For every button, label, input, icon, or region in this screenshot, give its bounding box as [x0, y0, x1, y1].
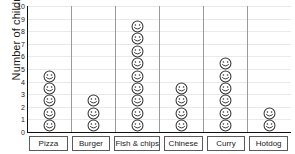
symbol-stack: [72, 95, 115, 132]
smiley-face-icon: [43, 119, 56, 132]
category-column: [116, 6, 160, 132]
smiley-face-icon: [87, 107, 100, 120]
symbol-stack: [248, 107, 291, 132]
category-column: [160, 6, 204, 132]
smiley-face-icon: [175, 107, 188, 120]
y-tick-label: 8: [12, 28, 25, 35]
y-tick-label: 6: [12, 53, 25, 60]
category-label-cell: Fish & chips: [114, 136, 160, 151]
smiley-face-icon: [43, 107, 56, 120]
y-tick-label: 9: [12, 15, 25, 22]
y-tick-label: 7: [12, 40, 25, 47]
category-columns: [28, 6, 291, 132]
smiley-face-icon: [87, 119, 100, 132]
smiley-face-icon: [131, 82, 144, 95]
smiley-face-icon: [263, 107, 276, 120]
category-column: [72, 6, 116, 132]
category-label-hotdog: Hotdog: [249, 136, 288, 151]
symbol-stack: [28, 70, 71, 132]
smiley-face-icon: [43, 94, 56, 107]
category-label-row: PizzaBurgerFish & chipsChineseCurryHotdo…: [27, 136, 290, 151]
category-label-cell: Hotdog: [249, 136, 288, 151]
smiley-face-icon: [131, 20, 144, 33]
symbol-stack: [204, 58, 247, 132]
category-label-cell: Pizza: [29, 136, 68, 151]
category-label-pizza: Pizza: [29, 136, 68, 151]
category-column: [248, 6, 291, 132]
y-axis-tick-labels: 012345678910: [12, 0, 25, 133]
y-tick-label: 3: [12, 91, 25, 98]
smiley-face-icon: [175, 94, 188, 107]
smiley-face-icon: [263, 119, 276, 132]
smiley-face-icon: [131, 70, 144, 83]
category-label-chinese: Chinese: [164, 136, 203, 151]
category-label-cell: Chinese: [164, 136, 203, 151]
y-tick-label: 4: [12, 78, 25, 85]
symbol-stack: [116, 20, 159, 132]
smiley-face-icon: [219, 107, 232, 120]
category-label-cell: Burger: [72, 136, 111, 151]
smiley-face-icon: [219, 70, 232, 83]
smiley-face-icon: [87, 94, 100, 107]
category-column: [28, 6, 72, 132]
y-tick-label: 10: [12, 3, 25, 10]
smiley-face-icon: [219, 119, 232, 132]
smiley-face-icon: [219, 57, 232, 70]
smiley-face-icon: [175, 119, 188, 132]
smiley-face-icon: [131, 94, 144, 107]
smiley-face-icon: [43, 70, 56, 83]
smiley-face-icon: [219, 94, 232, 107]
smiley-face-icon: [131, 45, 144, 58]
pictogram-chart: Number of children 012345678910 PizzaBur…: [0, 0, 295, 154]
symbol-stack: [160, 82, 203, 132]
plot-area: [27, 6, 291, 133]
category-column: [204, 6, 248, 132]
smiley-face-icon: [131, 32, 144, 45]
y-tick-label: 1: [12, 116, 25, 123]
y-tick-label: 5: [12, 66, 25, 73]
y-tick-label: 0: [12, 129, 25, 136]
category-label-fish-chips: Fish & chips: [114, 136, 160, 151]
category-label-cell: Curry: [207, 136, 246, 151]
smiley-face-icon: [131, 57, 144, 70]
category-label-curry: Curry: [207, 136, 246, 151]
category-label-burger: Burger: [72, 136, 111, 151]
smiley-face-icon: [175, 82, 188, 95]
smiley-face-icon: [219, 82, 232, 95]
smiley-face-icon: [131, 119, 144, 132]
smiley-face-icon: [43, 82, 56, 95]
y-tick-label: 2: [12, 103, 25, 110]
smiley-face-icon: [131, 107, 144, 120]
